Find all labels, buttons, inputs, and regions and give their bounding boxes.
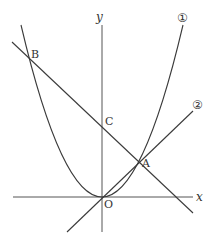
y-axis-label: y xyxy=(95,10,103,24)
x-axis-label: x xyxy=(196,190,203,204)
curve-label-2: ② xyxy=(192,98,203,112)
point-label-b: B xyxy=(31,48,39,61)
origin-label: O xyxy=(104,198,113,211)
line-2 xyxy=(67,111,193,232)
point-label-c: C xyxy=(105,115,113,128)
curve-label-1: ① xyxy=(177,11,188,25)
point-label-a: A xyxy=(141,157,151,170)
coordinate-diagram: y x O B C A ① ② xyxy=(0,0,215,239)
